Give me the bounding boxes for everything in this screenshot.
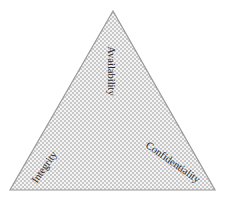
label-availability: Availability bbox=[106, 46, 117, 96]
cia-triad-diagram: Availability Integrity Confidentiality bbox=[0, 0, 228, 201]
